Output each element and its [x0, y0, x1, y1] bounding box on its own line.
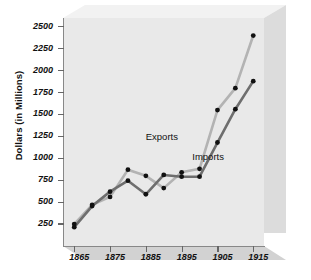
data-point-marker: [251, 33, 256, 38]
data-point-marker: [108, 194, 113, 199]
data-point-marker: [215, 140, 220, 145]
data-point-marker: [161, 173, 166, 178]
series-line-exports: [74, 36, 253, 225]
data-point-marker: [233, 86, 238, 91]
series-label-imports: Imports: [192, 151, 224, 162]
data-point-marker: [72, 225, 77, 230]
chart-root: Dollars (in Millions) 250500750100012501…: [0, 0, 311, 280]
data-point-marker: [215, 108, 220, 113]
series-line-imports: [74, 81, 253, 227]
data-point-marker: [251, 79, 256, 84]
data-point-marker: [179, 170, 184, 175]
data-point-marker: [143, 173, 148, 178]
data-point-marker: [143, 192, 148, 197]
data-point-marker: [126, 167, 131, 172]
data-point-marker: [90, 204, 95, 209]
data-point-marker: [197, 174, 202, 179]
series-label-exports: Exports: [146, 131, 178, 142]
data-point-marker: [126, 178, 131, 183]
data-point-marker: [233, 107, 238, 112]
data-point-marker: [108, 189, 113, 194]
data-point-marker: [179, 174, 184, 179]
data-point-marker: [197, 166, 202, 171]
data-point-marker: [161, 186, 166, 191]
